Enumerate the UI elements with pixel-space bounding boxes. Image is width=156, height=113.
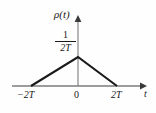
x-tick-label-minus-2t: −2T <box>17 90 34 100</box>
figure-container: ρ(t) 1 2T −2T 0 2T t <box>0 0 156 113</box>
fraction-denominator: 2T <box>55 42 76 53</box>
x-axis-label: t <box>144 89 147 99</box>
x-tick-label-2t: 2T <box>111 90 122 100</box>
y-axis-arrowhead <box>75 15 82 22</box>
peak-amplitude-label: 1 2T <box>55 30 76 53</box>
x-tick-label-zero: 0 <box>74 90 79 100</box>
triangular-pulse-curve <box>31 57 117 86</box>
fraction-numerator: 1 <box>55 30 76 41</box>
y-axis-label: ρ(t) <box>54 9 70 20</box>
